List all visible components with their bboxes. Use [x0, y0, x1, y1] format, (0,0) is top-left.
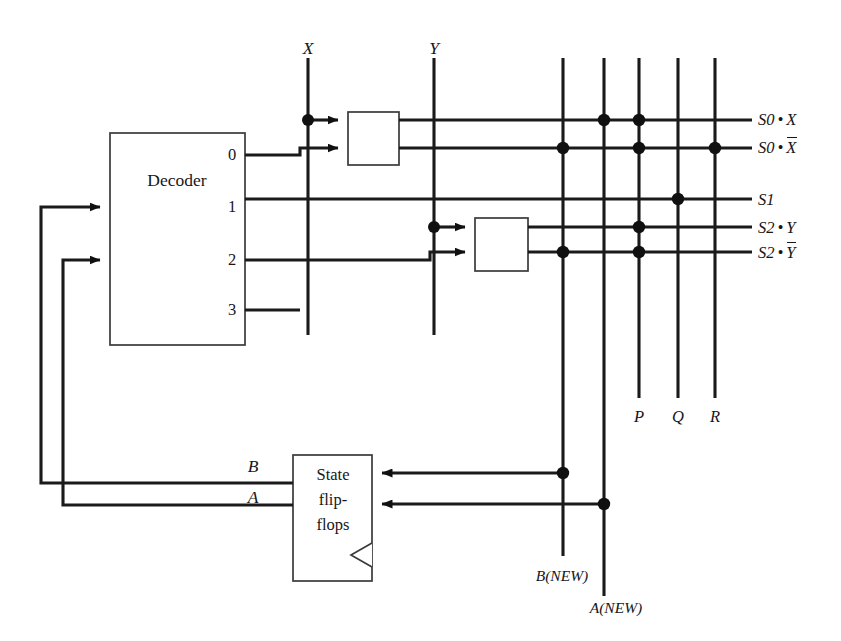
input-label-x: X [303, 38, 314, 59]
row-label-s0x-pre: S0 [758, 110, 775, 129]
row-label-s0xn-pre: S0 [758, 138, 775, 157]
matrix-dot-s2yn-p [633, 246, 645, 258]
row-label-s0x-post: X [786, 110, 796, 129]
junction-dot-anew-feed [598, 498, 610, 510]
decoder-out0-wire [245, 148, 338, 155]
column-label-anew: A(NEW) [590, 599, 643, 617]
row-label-s0xn: S0•X [758, 138, 796, 158]
row-label-s1-pre: S1 [758, 190, 775, 209]
state-flipflops-label-line-1: State [301, 462, 365, 487]
matrix-dot-s0x-p [633, 114, 645, 126]
row-label-s2yn-post: Y [786, 243, 795, 263]
column-label-p: P [634, 407, 644, 427]
matrix-dot-s2y-p [633, 221, 645, 233]
junction-dot-y [428, 221, 440, 233]
row-label-s0xn-post: X [786, 138, 796, 158]
feedback-label-b: B [248, 456, 259, 477]
decoder-block[interactable] [110, 133, 245, 345]
decoder-output-1-label: 1 [228, 197, 236, 217]
row-label-s0xn-op: • [778, 138, 784, 157]
decoder-output-3-label: 3 [228, 300, 236, 320]
column-label-q: Q [672, 407, 684, 427]
decoder-output-2-label: 2 [228, 250, 236, 270]
state-flipflops-label-line-2: flip- [301, 487, 365, 512]
row-label-s0x: S0•X [758, 110, 796, 130]
junction-dot-bnew-feed [557, 467, 569, 479]
matrix-dot-s0xn-p [633, 142, 645, 154]
row-label-s2y: S2•Y [758, 218, 795, 238]
state-flipflops-label-line-3: flops [301, 512, 365, 537]
decoder-out2-wire [245, 252, 465, 260]
row-label-s2yn-op: • [778, 243, 784, 262]
row-label-s0x-op: • [778, 110, 784, 129]
matrix-dot-s0xn-bnew [557, 142, 569, 154]
circuit-wiring-svg [0, 0, 841, 641]
matrix-dot-s0x-anew [598, 114, 610, 126]
inverter-x-block[interactable] [348, 112, 399, 165]
row-label-s2yn-pre: S2 [758, 243, 775, 262]
column-label-r: R [710, 407, 720, 427]
column-label-bnew: B(NEW) [536, 567, 589, 585]
input-label-y: Y [429, 38, 439, 59]
feedback-label-a: A [248, 487, 259, 508]
row-label-s2y-post: Y [786, 218, 795, 237]
matrix-dot-s2yn-bnew [557, 246, 569, 258]
matrix-dot-s0xn-r [709, 142, 721, 154]
state-flipflops-label: State flip- flops [301, 462, 365, 537]
row-label-s2y-op: • [778, 218, 784, 237]
matrix-dot-s1-q [672, 193, 684, 205]
circuit-diagram-canvas: X Y Decoder 0 1 2 3 State flip- flops B … [0, 0, 841, 641]
row-label-s2yn: S2•Y [758, 243, 795, 263]
decoder-output-0-label: 0 [228, 145, 236, 165]
inverter-y-block[interactable] [475, 218, 528, 271]
row-label-s2y-pre: S2 [758, 218, 775, 237]
row-label-s1: S1 [758, 190, 775, 210]
decoder-label: Decoder [147, 170, 206, 191]
junction-dot-x [302, 114, 314, 126]
